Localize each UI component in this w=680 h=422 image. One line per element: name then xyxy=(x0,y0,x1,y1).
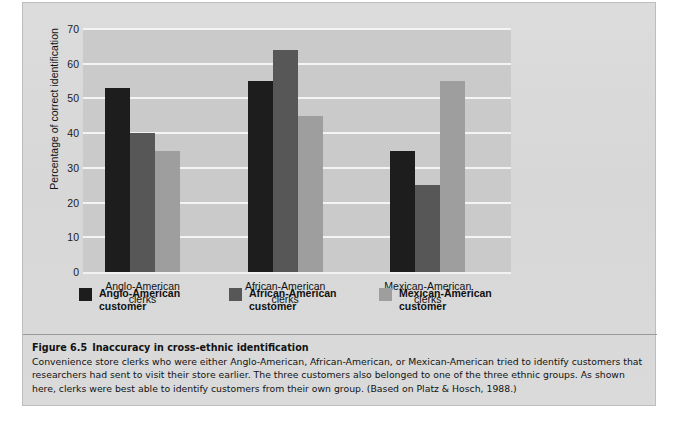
legend-swatch xyxy=(229,288,242,301)
chart-region: Percentage of correct identification 010… xyxy=(23,3,657,333)
legend-label-line: Mexican-American xyxy=(399,287,492,300)
bar xyxy=(273,50,298,272)
y-tick-label-60: 60 xyxy=(53,59,79,70)
legend-label: Anglo-Americancustomer xyxy=(99,287,180,313)
bar xyxy=(155,151,180,273)
legend-label-line: customer xyxy=(99,300,180,313)
y-tick-label-20: 20 xyxy=(53,198,79,209)
legend-label-line: African-American xyxy=(249,287,337,300)
caption-body: Convenience store clerks who were either… xyxy=(32,355,649,395)
bar xyxy=(105,88,130,272)
bar xyxy=(248,81,273,272)
bar xyxy=(130,133,155,272)
gridline-70 xyxy=(83,28,511,30)
figure-container: Percentage of correct identification 010… xyxy=(22,2,656,406)
y-tick-label-30: 30 xyxy=(53,163,79,174)
legend-label-line: Anglo-American xyxy=(99,287,180,300)
bar xyxy=(415,185,440,272)
legend-label-line: customer xyxy=(249,300,337,313)
legend-item: Mexican-Americancustomer xyxy=(379,287,492,313)
legend-label: Mexican-Americancustomer xyxy=(399,287,492,313)
figure-caption: Figure 6.5Inaccuracy in cross-ethnic ide… xyxy=(32,341,649,395)
legend-item: Anglo-Americancustomer xyxy=(79,287,180,313)
y-tick-label-0: 0 xyxy=(53,267,79,278)
caption-title-text: Inaccuracy in cross-ethnic identificatio… xyxy=(92,342,308,353)
legend-item: African-Americancustomer xyxy=(229,287,337,313)
y-tick-label-50: 50 xyxy=(53,93,79,104)
y-tick-label-70: 70 xyxy=(53,24,79,35)
bar xyxy=(440,81,465,272)
legend-label-line: customer xyxy=(399,300,492,313)
bar xyxy=(298,116,323,272)
x-axis-baseline xyxy=(83,272,511,274)
legend-swatch xyxy=(379,288,392,301)
y-tick-label-40: 40 xyxy=(53,128,79,139)
chart-legend: Anglo-AmericancustomerAfrican-Americancu… xyxy=(79,287,639,327)
legend-label: African-Americancustomer xyxy=(249,287,337,313)
bar xyxy=(390,151,415,273)
legend-swatch xyxy=(79,288,92,301)
caption-divider xyxy=(23,334,657,335)
caption-figure-number: Figure 6.5 xyxy=(32,342,87,353)
caption-title: Figure 6.5Inaccuracy in cross-ethnic ide… xyxy=(32,341,649,354)
y-tick-label-10: 10 xyxy=(53,232,79,243)
